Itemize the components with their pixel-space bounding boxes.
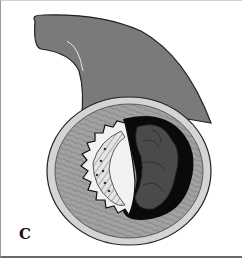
artery-illustration (1, 1, 242, 258)
figure-frame: C (0, 0, 242, 258)
panel-label: C (19, 225, 31, 243)
